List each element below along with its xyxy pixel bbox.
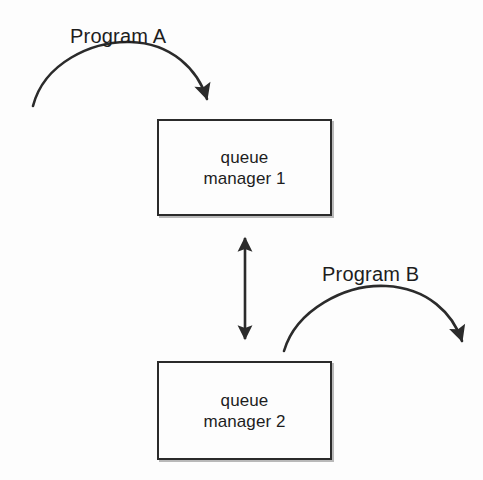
node-queue-manager-2-label-line1: queue xyxy=(221,390,269,411)
node-queue-manager-1[interactable]: queue manager 1 xyxy=(157,119,332,216)
diagram-canvas: Program A queue manager 1 Program B queu… xyxy=(0,0,483,480)
program-b-label: Program B xyxy=(322,263,419,285)
program-a-label: Program A xyxy=(70,25,166,47)
program-a-arrow xyxy=(33,42,207,106)
node-queue-manager-1-label-line1: queue xyxy=(221,147,269,168)
node-queue-manager-1-label-line2: manager 1 xyxy=(203,168,285,189)
node-queue-manager-2-label-line2: manager 2 xyxy=(203,411,285,432)
node-queue-manager-2[interactable]: queue manager 2 xyxy=(157,361,332,460)
program-b-arrow xyxy=(284,286,462,351)
